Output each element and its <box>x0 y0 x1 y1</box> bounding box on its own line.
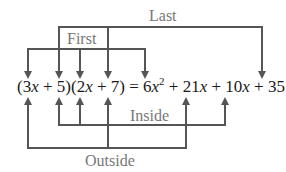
eq-seg: + 10 <box>207 77 242 96</box>
arrowhead-up-icon <box>221 97 229 105</box>
arrowhead-up-icon <box>76 97 84 105</box>
label-last: Last <box>149 7 177 24</box>
first-connector <box>28 49 145 72</box>
eq-seg: + 35 <box>250 77 285 96</box>
label-outside: Outside <box>85 152 135 169</box>
arrowhead-up-icon <box>55 97 63 105</box>
arrowhead-up-icon <box>24 97 32 105</box>
arrowhead-up-icon <box>104 97 112 105</box>
eq-seg: + 21 <box>165 77 200 96</box>
first-bracket-line <box>28 49 145 72</box>
label-first: First <box>67 30 97 47</box>
equation: (3x + 5)(2x + 7) = 6x2 + 21x + 10x + 35 <box>17 75 285 96</box>
label-inside: Inside <box>130 107 169 124</box>
arrowhead-up-icon <box>182 97 190 105</box>
up-arrowheads <box>24 97 229 105</box>
eq-seg: + 7) = 6 <box>93 77 152 96</box>
eq-seg: + 5)(2 <box>39 77 85 96</box>
eq-seg: (3 <box>17 77 31 96</box>
foil-diagram: Last First (3x + 5)(2x + 7) = 6x2 + 21x … <box>0 0 286 172</box>
